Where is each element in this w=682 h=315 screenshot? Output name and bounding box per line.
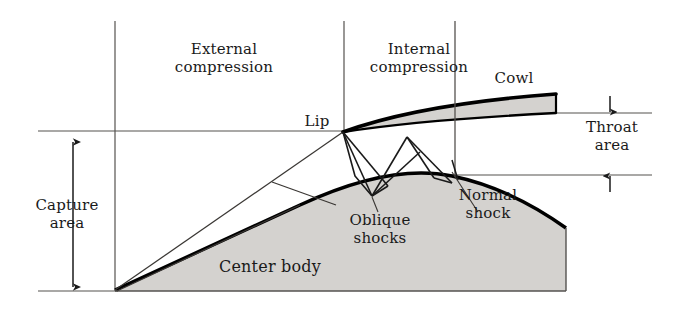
- inlet-diagram-figure: External compression Internal compressio…: [0, 0, 682, 315]
- label-center-body: Center body: [196, 258, 344, 277]
- label-oblique-shocks: Oblique shocks: [330, 211, 430, 247]
- label-internal-compression: Internal compression: [349, 40, 489, 76]
- cowl-fill: [343, 94, 556, 132]
- label-throat-area: Throat area: [563, 118, 661, 154]
- label-capture-area: Capture area: [10, 196, 124, 232]
- label-normal-shock: Normal shock: [440, 186, 536, 222]
- label-cowl: Cowl: [481, 70, 547, 88]
- label-lip: Lip: [297, 113, 337, 131]
- cowl-shape: [343, 94, 556, 132]
- label-external-compression: External compression: [156, 40, 292, 76]
